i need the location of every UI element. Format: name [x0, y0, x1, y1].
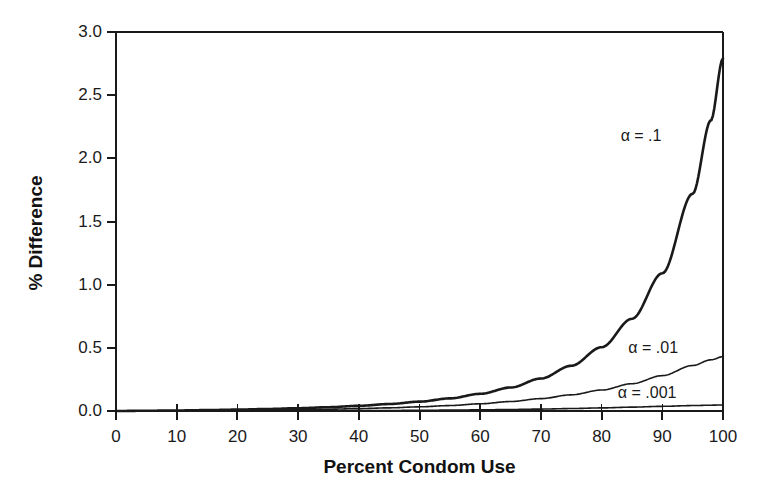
series-annotation-1: α = .1 [621, 127, 662, 145]
x-tick-label: 80 [592, 427, 611, 447]
plot-canvas [0, 0, 768, 498]
y-tick-label: 3.0 [40, 22, 102, 42]
x-tick-label: 60 [471, 427, 490, 447]
x-tick-label: 40 [349, 427, 368, 447]
x-tick-label: 70 [531, 427, 550, 447]
x-tick-label: 90 [653, 427, 672, 447]
y-tick-label: 0.5 [40, 338, 102, 358]
y-axis-title: % Difference [25, 113, 47, 353]
series-annotation-3: α = .001 [618, 384, 677, 402]
x-tick-label: 100 [709, 427, 737, 447]
x-tick-label: 20 [228, 427, 247, 447]
x-tick-label: 10 [167, 427, 186, 447]
x-tick-label: 50 [410, 427, 429, 447]
x-tick-label: 0 [111, 427, 120, 447]
x-axis-title: Percent Condom Use [116, 456, 723, 478]
series-annotation-2: α = .01 [628, 339, 678, 357]
y-tick-label: 1.0 [40, 275, 102, 295]
y-tick-label: 1.5 [40, 212, 102, 232]
y-tick-label: 2.5 [40, 85, 102, 105]
y-tick-label: 0.0 [40, 401, 102, 421]
y-tick-label: 2.0 [40, 148, 102, 168]
x-tick-label: 30 [289, 427, 308, 447]
chart-figure: 0.00.51.01.52.02.53.0 010203040506070809… [0, 0, 768, 498]
